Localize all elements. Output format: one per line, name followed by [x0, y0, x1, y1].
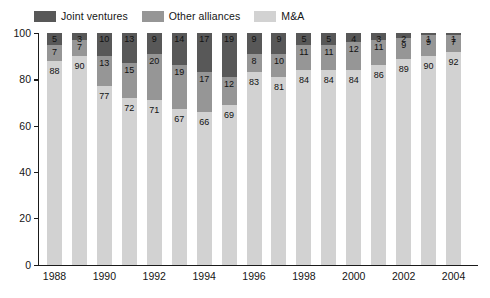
- bar-1996: 8389: [247, 33, 262, 265]
- bar-segment: 9: [271, 33, 286, 54]
- bar-value-label: 5: [321, 35, 336, 44]
- bar-segment: 84: [346, 70, 361, 265]
- bar-value-label: 14: [172, 35, 187, 44]
- bar-2003: 9091: [421, 33, 436, 265]
- x-tick-label: 1990: [93, 270, 116, 282]
- x-tick-label: 1994: [192, 270, 215, 282]
- legend-label: M&A: [281, 11, 304, 22]
- bar-segment: 13: [97, 56, 112, 86]
- bar-value-label: 5: [47, 35, 62, 44]
- bar-value-label: 84: [296, 76, 311, 85]
- bar-group: 8875907377131072151371209671914661717691…: [38, 33, 478, 266]
- bar-value-label: 10: [271, 57, 286, 66]
- bar-segment: 9: [147, 33, 162, 54]
- bar-value-label: 1: [421, 35, 436, 44]
- bar-value-label: 10: [97, 35, 112, 44]
- bar-segment: 5: [321, 33, 336, 45]
- bar-value-label: 83: [247, 78, 262, 87]
- bar-1999: 84115: [321, 33, 336, 265]
- bar-value-label: 11: [321, 48, 336, 57]
- plot-area: 020406080100 887590737713107215137120967…: [38, 33, 478, 266]
- bar-value-label: 17: [197, 75, 212, 84]
- x-tick-label: 2004: [442, 270, 465, 282]
- bar-segment: 11: [321, 45, 336, 70]
- bar-segment: 88: [47, 61, 62, 265]
- bar-segment: 14: [172, 33, 187, 65]
- bar-segment: 15: [122, 63, 137, 98]
- bar-1990: 771310: [97, 33, 112, 265]
- bar-segment: 5: [296, 33, 311, 45]
- bar-value-label: 15: [122, 66, 137, 75]
- bar-segment: 8: [247, 54, 262, 73]
- legend-item-1: Joint ventures: [34, 11, 128, 22]
- bar-value-label: 84: [321, 76, 336, 85]
- bar-segment: 69: [222, 105, 237, 265]
- bar-value-label: 72: [122, 104, 137, 113]
- bar-segment: 83: [247, 72, 262, 264]
- bar-segment: 17: [197, 72, 212, 111]
- bar-value-label: 1: [446, 35, 461, 44]
- bar-segment: 84: [296, 70, 311, 265]
- legend-swatch-icon: [254, 11, 276, 22]
- bar-value-label: 90: [421, 62, 436, 71]
- y-tick-label: 20: [19, 212, 31, 224]
- bar-2000: 84124: [346, 33, 361, 265]
- bar-value-label: 88: [47, 67, 62, 76]
- bar-1989: 9073: [72, 33, 87, 265]
- bar-value-label: 11: [371, 43, 386, 52]
- bar-1998: 84115: [296, 33, 311, 265]
- bar-1994: 661717: [197, 33, 212, 265]
- bar-segment: 77: [97, 86, 112, 264]
- y-tick-label: 40: [19, 166, 31, 178]
- bar-segment: 20: [147, 54, 162, 100]
- bar-segment: 2: [396, 33, 411, 38]
- bar-segment: 86: [371, 65, 386, 264]
- bar-segment: 19: [172, 65, 187, 109]
- bar-1988: 8875: [47, 33, 62, 265]
- bar-segment: 1: [421, 33, 436, 35]
- bar-value-label: 8: [247, 57, 262, 66]
- bar-value-label: 3: [371, 35, 386, 44]
- x-tick-label: 2002: [392, 270, 415, 282]
- bar-value-label: 5: [296, 35, 311, 44]
- y-tick-label: 0: [25, 259, 31, 271]
- bar-2002: 8992: [396, 33, 411, 265]
- bar-value-label: 20: [147, 57, 162, 66]
- bar-value-label: 2: [396, 35, 411, 44]
- bar-value-label: 19: [172, 68, 187, 77]
- bar-segment: 19: [222, 33, 237, 77]
- bar-segment: 71: [147, 100, 162, 264]
- bar-value-label: 4: [346, 35, 361, 44]
- bar-value-label: 92: [446, 58, 461, 67]
- bar-value-label: 81: [271, 83, 286, 92]
- bar-value-label: 9: [271, 35, 286, 44]
- bar-segment: 11: [296, 45, 311, 70]
- chart-legend: Joint venturesOther alliancesM&A: [34, 9, 318, 23]
- bar-segment: 66: [197, 112, 212, 265]
- bar-value-label: 69: [222, 111, 237, 120]
- bar-segment: 67: [172, 109, 187, 264]
- x-axis-labels: 198819901992199419961998200020022004: [38, 270, 478, 286]
- bar-segment: 13: [122, 33, 137, 63]
- bar-1993: 671914: [172, 33, 187, 265]
- bar-value-label: 84: [346, 76, 361, 85]
- bar-segment: 5: [47, 33, 62, 45]
- bar-value-label: 11: [296, 48, 311, 57]
- legend-swatch-icon: [34, 11, 56, 22]
- bar-2001: 86113: [371, 33, 386, 265]
- y-tick-label: 60: [19, 120, 31, 132]
- bar-value-label: 66: [197, 118, 212, 127]
- bar-value-label: 12: [222, 80, 237, 89]
- legend-label: Joint ventures: [61, 11, 128, 22]
- y-tick-label: 100: [13, 27, 31, 39]
- bar-segment: 7: [47, 45, 62, 61]
- bar-segment: 1: [446, 33, 461, 35]
- bar-segment: 72: [122, 98, 137, 265]
- bar-1997: 81109: [271, 33, 286, 265]
- x-tick-label: 1992: [143, 270, 166, 282]
- bar-segment: 10: [271, 54, 286, 77]
- bar-value-label: 89: [396, 65, 411, 74]
- bar-value-label: 17: [197, 35, 212, 44]
- x-tick-label: 1998: [292, 270, 315, 282]
- bar-value-label: 7: [47, 48, 62, 57]
